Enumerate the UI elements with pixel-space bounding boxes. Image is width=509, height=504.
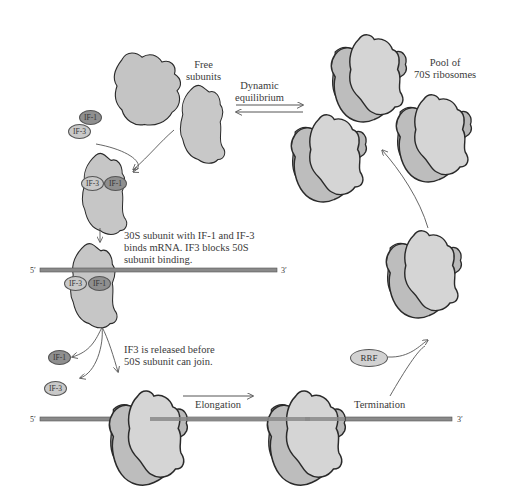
label-line: 30S subunit with IF-1 and IF-3 — [124, 230, 254, 242]
mrna-5-prime-label-top: 5′ — [30, 265, 36, 277]
label-termination: Termination — [354, 399, 405, 411]
free-50s-subunit — [114, 53, 180, 125]
if3-free-badge: IF-3 — [68, 124, 91, 139]
label-elongation: Elongation — [195, 399, 241, 411]
if1-released-badge: IF-1 — [48, 350, 71, 365]
if1-free-badge: IF-1 — [79, 110, 102, 125]
30s-if-complex — [82, 153, 126, 234]
label-free-subunits: Free subunits — [186, 59, 221, 83]
label-step-if3-released: IF3 is released before 50S subunit can j… — [124, 344, 215, 368]
label-line: Dynamic — [235, 80, 284, 92]
free-30s-subunit — [180, 85, 224, 163]
label-step-binds-mrna: 30S subunit with IF-1 and IF-3 binds mRN… — [124, 230, 254, 266]
mrna-3-prime-label-bottom: 3′ — [457, 414, 463, 426]
label-line: IF3 is released before — [124, 344, 215, 356]
label-line: 70S ribosomes — [414, 69, 476, 81]
if1-mrna-badge: IF-1 — [88, 276, 111, 291]
if3-released-badge: IF-3 — [44, 381, 67, 396]
rrf-badge: RRF — [350, 349, 388, 367]
label-line: subunit binding. — [124, 254, 254, 266]
label-line: Free — [186, 59, 221, 71]
label-dynamic-equilibrium: Dynamic equilibrium — [235, 80, 284, 104]
if1-bound-badge: IF-1 — [104, 176, 127, 191]
label-line: subunits — [186, 71, 221, 83]
label-pool: Pool of 70S ribosomes — [414, 57, 476, 81]
label-line: Pool of — [414, 57, 476, 69]
mrna-5-prime-label-bottom: 5′ — [30, 414, 36, 426]
label-line: 50S subunit can join. — [124, 356, 215, 368]
mrna-3-prime-label-top: 3′ — [281, 265, 287, 277]
label-line: binds mRNA. IF3 blocks 50S — [124, 242, 254, 254]
if3-bound-badge: IF-3 — [81, 176, 104, 191]
if3-mrna-badge: IF-3 — [64, 276, 87, 291]
label-line: equilibrium — [235, 92, 284, 104]
